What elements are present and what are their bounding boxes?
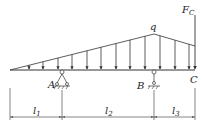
support-a [54, 70, 70, 89]
load-peak-label: q [150, 21, 156, 32]
support-a-label: A [47, 79, 55, 90]
point-c-label: C [190, 74, 198, 85]
beam-diagram: q FC A B C l1 l [0, 0, 202, 134]
dimension-l3-label: l3 [172, 105, 180, 118]
distributed-load [10, 34, 195, 70]
force-label: FC [181, 4, 195, 17]
dimension-l1-label: l1 [33, 105, 41, 118]
support-b [148, 70, 160, 89]
support-b-label: B [136, 80, 144, 91]
dimension-l2-label: l2 [105, 105, 113, 118]
